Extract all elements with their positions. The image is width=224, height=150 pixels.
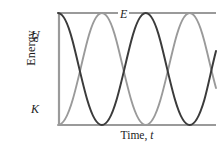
y-axis-label: Energy [22, 0, 40, 108]
total-energy-label: E [118, 8, 129, 20]
plot-area [58, 12, 216, 126]
kinetic-energy-curve [58, 13, 216, 125]
potential-energy-label: U [31, 29, 40, 41]
x-axis-variable: t [150, 129, 153, 141]
kinetic-energy-label: K [31, 103, 39, 115]
chart-svg [58, 12, 216, 126]
potential-energy-curve [58, 13, 216, 125]
physics-energy-chart-figure: Energy U K E Time, t [0, 0, 224, 150]
x-axis-label: Time, t [58, 129, 216, 141]
x-axis-label-text: Time, [121, 129, 148, 141]
